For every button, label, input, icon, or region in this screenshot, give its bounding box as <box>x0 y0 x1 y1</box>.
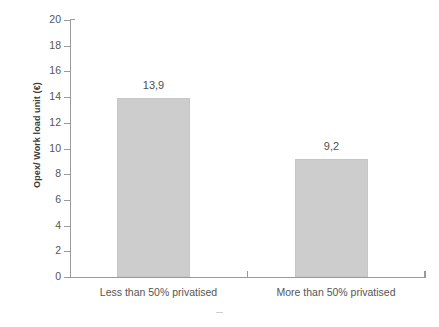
y-axis-tick-label: 20 <box>21 14 61 25</box>
y-axis-tick <box>64 251 70 252</box>
y-axis-tick <box>64 46 70 47</box>
y-axis-top-cap <box>70 19 75 20</box>
y-axis-tick-label: 8 <box>21 168 61 179</box>
x-axis-category-label: More than 50% privatised <box>247 286 425 298</box>
y-axis-tick-label: 12 <box>21 117 61 128</box>
y-axis-line <box>70 19 71 278</box>
y-axis-tick-label: 0 <box>21 271 61 282</box>
y-axis-tick <box>64 200 70 201</box>
scan-artifact <box>216 312 223 313</box>
bar <box>117 98 190 277</box>
bar-chart: Opex/ Work load unit (€) 024681012141618… <box>0 0 439 327</box>
bar <box>295 159 368 277</box>
y-axis-tick-label: 6 <box>21 194 61 205</box>
y-axis-tick-label: 14 <box>21 91 61 102</box>
x-axis-tick <box>247 271 248 278</box>
x-axis-category-label: Less than 50% privatised <box>70 286 247 298</box>
y-axis-tick <box>64 149 70 150</box>
x-axis-tick <box>425 271 426 278</box>
y-axis-tick-label: 2 <box>21 245 61 256</box>
bar-value-label: 9,2 <box>295 140 368 152</box>
y-axis-tick-label: 18 <box>21 40 61 51</box>
y-axis-tick <box>64 97 70 98</box>
y-axis-tick-label: 16 <box>21 65 61 76</box>
bar-value-label: 13,9 <box>117 79 190 91</box>
y-axis-tick <box>64 226 70 227</box>
y-axis-tick <box>64 20 70 21</box>
y-axis-tick-label: 10 <box>21 143 61 154</box>
y-axis-tick <box>64 123 70 124</box>
y-axis-tick-label: 4 <box>21 220 61 231</box>
x-axis-tick <box>70 271 71 278</box>
y-axis-tick <box>64 71 70 72</box>
y-axis-tick <box>64 174 70 175</box>
